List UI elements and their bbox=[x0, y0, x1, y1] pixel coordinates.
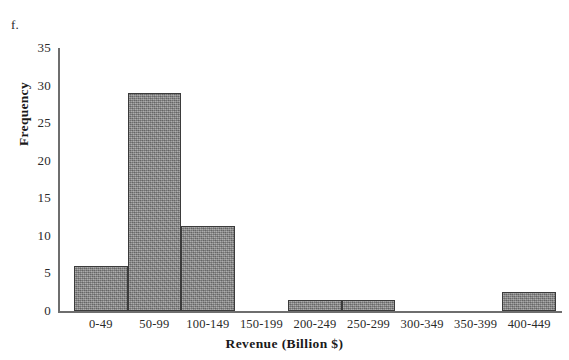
y-axis-title: Frequency bbox=[16, 82, 32, 146]
plot-area: 05101520253035 bbox=[58, 48, 562, 313]
x-tick-50-99: 50-99 bbox=[128, 317, 182, 332]
x-tick-100-149: 100-149 bbox=[181, 317, 235, 332]
y-tick-35: 35 bbox=[37, 40, 51, 56]
y-tick-15: 15 bbox=[37, 190, 51, 206]
figure-panel: f. Frequency 05101520253035 0-4950-99100… bbox=[0, 0, 569, 360]
y-tick-5: 5 bbox=[44, 265, 51, 281]
x-tick-0-49: 0-49 bbox=[74, 317, 128, 332]
bar-250-299 bbox=[342, 300, 396, 311]
bar-slot bbox=[74, 48, 128, 311]
bar-slot bbox=[181, 48, 235, 311]
bar-100-149 bbox=[181, 226, 235, 311]
x-tick-150-199: 150-199 bbox=[235, 317, 289, 332]
x-axis-line bbox=[58, 311, 562, 313]
part-label: f. bbox=[11, 17, 19, 33]
x-axis-tick-labels: 0-4950-99100-149150-199200-249250-299300… bbox=[58, 317, 562, 335]
bar-0-49 bbox=[74, 266, 128, 311]
y-tick-25: 25 bbox=[37, 115, 51, 131]
x-tick-200-249: 200-249 bbox=[288, 317, 342, 332]
bar-slot bbox=[502, 48, 556, 311]
x-tick-400-449: 400-449 bbox=[502, 317, 556, 332]
y-tick-30: 30 bbox=[37, 78, 51, 94]
bar-slot bbox=[449, 48, 503, 311]
bar-200-249 bbox=[288, 300, 342, 311]
bar-slot bbox=[235, 48, 289, 311]
x-tick-300-349: 300-349 bbox=[395, 317, 449, 332]
bar-slot bbox=[395, 48, 449, 311]
bar-50-99 bbox=[128, 93, 182, 311]
bar-slot bbox=[288, 48, 342, 311]
bar-slot bbox=[128, 48, 182, 311]
x-tick-250-299: 250-299 bbox=[342, 317, 396, 332]
y-tick-10: 10 bbox=[37, 228, 51, 244]
bar-series bbox=[58, 48, 562, 311]
bar-slot bbox=[342, 48, 396, 311]
x-tick-350-399: 350-399 bbox=[449, 317, 503, 332]
x-axis-title: Revenue (Billion $) bbox=[0, 336, 569, 352]
y-tick-20: 20 bbox=[37, 153, 51, 169]
bar-400-449 bbox=[502, 292, 556, 311]
y-tick-0: 0 bbox=[44, 303, 51, 319]
